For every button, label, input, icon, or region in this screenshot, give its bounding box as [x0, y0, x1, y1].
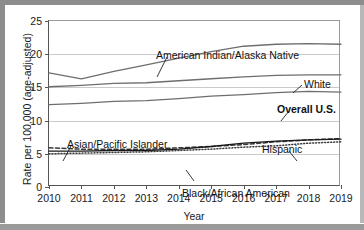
x-tick-mark [341, 185, 342, 189]
plot-area: 0510152025201020112012201320142015201620… [48, 20, 340, 186]
y-tick-label: 5 [36, 148, 42, 160]
chart-figure: Rate per 100,000 (age-adjusted) Year 051… [0, 0, 364, 230]
series-label: Hispanic [262, 144, 302, 155]
series-label: Asian/Pacific Islander [67, 139, 167, 150]
x-tick-label: 2013 [135, 192, 158, 204]
x-tick-label: 2018 [297, 192, 320, 204]
figure-frame-bottom [0, 224, 364, 230]
series-label: White [304, 79, 331, 90]
x-tick-label: 2010 [37, 192, 60, 204]
y-tick-label: 10 [30, 115, 42, 127]
figure-frame-right [360, 5, 364, 223]
y-tick-label: 15 [30, 81, 42, 93]
y-tick-label: 25 [30, 15, 42, 27]
series-label: Overall U.S. [277, 104, 336, 115]
x-tick-label: 2012 [102, 192, 125, 204]
x-tick-label: 2019 [329, 192, 352, 204]
series-label: American Indian/Alaska Native [156, 50, 299, 61]
chart-canvas: Rate per 100,000 (age-adjusted) Year 051… [5, 5, 360, 223]
x-tick-label: 2011 [70, 192, 93, 204]
x-axis-title: Year [48, 210, 340, 222]
y-tick-label: 20 [30, 48, 42, 60]
series-label: Black/African American [182, 188, 290, 199]
